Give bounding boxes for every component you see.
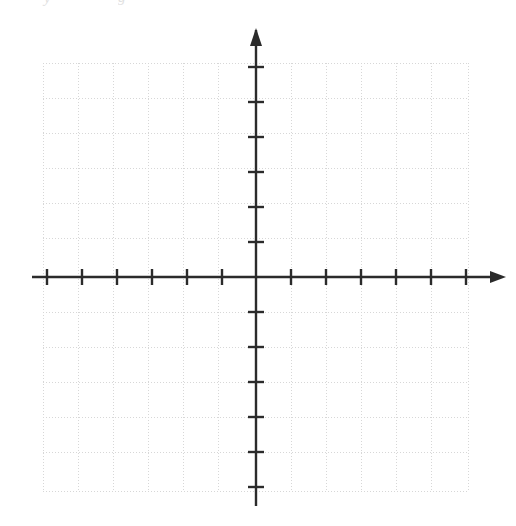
- coordinate-plane: [0, 0, 516, 526]
- y-axis-arrowhead: [250, 28, 262, 46]
- worksheet-page: y g: [0, 0, 516, 526]
- axes-and-ticks: [0, 0, 516, 526]
- x-axis-arrowhead: [490, 271, 506, 283]
